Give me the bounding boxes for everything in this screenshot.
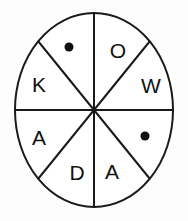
filled-dot-icon-top: [65, 43, 74, 52]
sector-label-o: O: [110, 39, 126, 62]
sector-wheel-diagram: K O W A D A: [0, 0, 188, 221]
wheel-figure: K O W A D A: [0, 0, 188, 221]
sector-label-a-left: A: [32, 126, 46, 149]
sector-label-a-bottom: A: [105, 160, 119, 183]
sector-label-k: K: [32, 73, 46, 96]
filled-dot-icon-bottom-right: [141, 132, 150, 141]
sector-label-d: D: [69, 161, 84, 184]
sector-label-w: W: [141, 74, 161, 97]
